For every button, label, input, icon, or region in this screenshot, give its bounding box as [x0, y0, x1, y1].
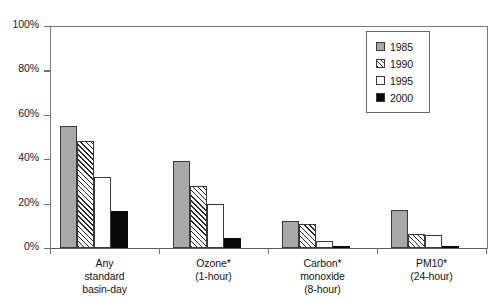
legend-item: 1985 [367, 38, 429, 55]
bar [425, 235, 442, 248]
legend-swatch-icon [376, 59, 385, 68]
chart-legend: 1985199019952000 [366, 31, 430, 113]
bar [282, 221, 299, 248]
bar [316, 241, 333, 248]
category-label-line: (8-hour) [268, 283, 377, 296]
legend-swatch-icon [376, 42, 385, 51]
category-axis-tick [159, 248, 160, 254]
category-label: Ozone*(1-hour) [159, 257, 268, 283]
bar [207, 204, 224, 248]
value-axis-tick-label: 60% [18, 107, 39, 119]
category-label-line: PM10* [377, 257, 486, 270]
legend-swatch-icon [376, 93, 385, 102]
legend-item-label: 1985 [390, 41, 413, 53]
bar [190, 186, 207, 248]
category-label-line: basin-day [50, 283, 159, 296]
category-axis-tick [377, 248, 378, 254]
bar [111, 211, 128, 248]
value-axis-tick-label: 20% [18, 196, 39, 208]
category-label-line: Any [50, 257, 159, 270]
category-label-line: (1-hour) [159, 270, 268, 283]
legend-item-label: 1990 [390, 58, 413, 70]
bar [442, 246, 459, 248]
category-label: PM10*(24-hour) [377, 257, 486, 283]
category-label-line: (24-hour) [377, 270, 486, 283]
legend-item: 2000 [367, 89, 429, 106]
category-label-line: standard [50, 270, 159, 283]
bar [94, 177, 111, 248]
category-axis-tick [50, 248, 51, 254]
value-axis-tick-label: 0% [24, 240, 39, 252]
legend-swatch-icon [376, 76, 385, 85]
bar [173, 161, 190, 248]
category-label: Anystandardbasin-day [50, 257, 159, 296]
legend-item: 1990 [367, 55, 429, 72]
value-axis-tick-label: 40% [18, 151, 39, 163]
bar-chart: 100%80%60%40%20%0% Anystandardbasin-dayO… [0, 0, 496, 307]
value-axis-tick-label: 100% [13, 18, 39, 30]
category-label: Carbon*monoxide(8-hour) [268, 257, 377, 296]
bar [60, 126, 77, 248]
legend-item-label: 2000 [390, 92, 413, 104]
legend-item: 1995 [367, 72, 429, 89]
category-label-line: Ozone* [159, 257, 268, 270]
category-label-line: monoxide [268, 270, 377, 283]
bar [224, 238, 241, 248]
value-axis-tick-label: 80% [18, 62, 39, 74]
bar [408, 234, 425, 248]
category-axis-tick [268, 248, 269, 254]
bar [299, 224, 316, 248]
legend-item-label: 1995 [390, 75, 413, 87]
category-axis-tick [486, 248, 487, 254]
bar [391, 210, 408, 248]
category-label-line: Carbon* [268, 257, 377, 270]
bar [77, 141, 94, 248]
bar [333, 246, 350, 248]
